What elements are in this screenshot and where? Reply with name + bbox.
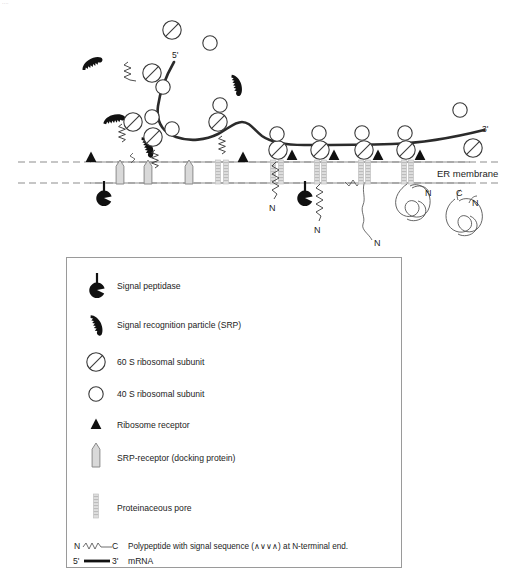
er-membrane: ER membrane: [18, 162, 500, 183]
signal-sequence-zigzag-middle: [219, 136, 226, 154]
er-translocation-diagram: ER membrane 5' 3': [0, 0, 518, 581]
60s-ribosomal-subunit-4: [397, 141, 415, 159]
legend-label-srp: Signal recognition particle (SRP): [117, 320, 241, 330]
proteinaceous-pore-empty-2: [223, 160, 228, 184]
legend-label-mrna: mRNA: [128, 556, 154, 566]
n-terminus-label-2: N: [314, 225, 321, 235]
proteinaceous-pore-1b: [278, 160, 283, 184]
srp-icon-free-2: [231, 73, 244, 97]
signal-peptidase-icon-2: [297, 181, 312, 206]
signal-peptidase-icon-1: [96, 181, 111, 206]
srp-docking-complex: [141, 122, 179, 168]
legend-box: [67, 258, 402, 568]
proteinaceous-pore-icon: [93, 494, 98, 518]
legend-label-proteinaceous-pore: Proteinaceous pore: [117, 503, 192, 513]
legend-item-polypeptide: N C Polypeptide with signal sequence (∧∨…: [74, 541, 348, 551]
60s-ribosomal-subunit-3: [355, 141, 373, 159]
mrna-3-prime-label: 3': [482, 124, 489, 134]
translocating-ribosome-1: N: [269, 127, 298, 213]
proteinaceous-pore-3b: [365, 160, 370, 184]
legend-mrna-3-prime: 3': [112, 556, 119, 566]
legend-polypeptide-description: Polypeptide with signal sequence (∧∨∨∧) …: [128, 542, 348, 551]
n-terminus-label-1: N: [269, 203, 276, 213]
nascent-chain-2: [316, 184, 323, 221]
srp-receptors: [116, 160, 193, 184]
proteinaceous-pore-4b: [408, 160, 413, 184]
60s-ribosomal-subunit-icon: [87, 353, 105, 371]
60s-ribosomal-subunit-arrested: [124, 113, 142, 131]
figure-root: ....: [0, 0, 518, 581]
folded-protein-free: C N: [446, 188, 482, 236]
40s-ribosomal-subunit-1: [270, 127, 284, 141]
proteinaceous-pore-empty-1: [215, 160, 220, 184]
40s-ribosomal-subunit-icon: [89, 387, 103, 401]
legend-label-60s: 60 S ribosomal subunit: [117, 357, 205, 367]
40s-ribosomal-subunit-2: [312, 126, 326, 140]
srp-receptor-2: [144, 160, 152, 184]
60s-ribosomal-subunit-middle: [209, 113, 227, 131]
60s-ribosomal-subunit-free-1: [163, 21, 181, 39]
40s-ribosomal-subunit-upper: [156, 80, 170, 94]
40s-ribosomal-subunit-arrested: [145, 110, 159, 124]
60s-ribosomal-subunit-upper: [143, 64, 161, 82]
legend-mrna-5-prime: 5': [73, 556, 80, 566]
ribosome-receptor-free-1: [86, 151, 97, 162]
proteinaceous-pore-3a: [358, 160, 363, 184]
ribosome-receptor-free-2: [238, 151, 249, 162]
60s-ribosomal-subunit-2: [311, 141, 329, 159]
60s-ribosomal-subunit-docking: [144, 128, 162, 146]
legend-label-srp-receptor: SRP-receptor (docking protein): [117, 453, 236, 463]
40s-ribosomal-subunit-middle: [213, 98, 227, 112]
40s-ribosomal-subunit-free-1: [203, 36, 217, 50]
legend-polypeptide-c-label: C: [112, 541, 118, 551]
proteinaceous-pore-2a: [314, 160, 319, 184]
40s-ribosomal-subunit-free-2: [453, 103, 467, 117]
60s-ribosomal-subunit-free-2: [464, 139, 482, 157]
srp-icon-free-1: [80, 55, 104, 71]
n-terminus-label-4: N: [425, 188, 432, 198]
srp-bound-ribosome-upper: [124, 62, 170, 94]
srp-receptor-1: [116, 160, 124, 184]
40s-ribosomal-subunit-3: [355, 126, 369, 140]
ribosome-receptor-4: [415, 149, 426, 160]
c-terminus-label-free: C: [456, 188, 463, 198]
ribosome-receptor-3: [373, 149, 384, 160]
er-membrane-label: ER membrane: [437, 168, 498, 179]
ribosome-receptor-2: [329, 149, 340, 160]
signal-sequence-zigzag-arrested: [119, 124, 126, 142]
n-terminus-label-3: N: [374, 238, 381, 248]
nascent-chain-3: [362, 184, 372, 240]
signal-sequence-zigzag-docking: [152, 150, 159, 168]
n-terminus-label-free: N: [472, 198, 479, 208]
legend-label-signal-peptidase: Signal peptidase: [117, 281, 181, 291]
legend-label-40s: 40 S ribosomal subunit: [117, 389, 205, 399]
mrna-5-prime-label: 5': [172, 50, 179, 60]
srp-receptor-icon: [92, 443, 100, 467]
legend-polypeptide-n-label: N: [74, 541, 80, 551]
signal-peptidase-middle: [297, 181, 312, 206]
srp-receptor-3: [185, 160, 193, 184]
60s-ribosomal-subunit-1: [269, 141, 287, 159]
legend-label-ribosome-receptor: Ribosome receptor: [117, 420, 190, 430]
translocating-ribosome-2: N: [311, 126, 340, 235]
proteinaceous-pore-4a: [401, 160, 406, 184]
srp-icon-arrested: [102, 113, 125, 124]
proteinaceous-pore-2b: [321, 160, 326, 184]
signal-peptidase-left: [96, 181, 111, 206]
40s-ribosomal-subunit-docking: [165, 122, 179, 136]
40s-ribosomal-subunit-4: [398, 126, 412, 140]
empty-translocon-middle: [209, 98, 229, 184]
ribosome-receptor-1: [287, 149, 298, 160]
